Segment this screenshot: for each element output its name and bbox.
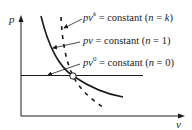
x-axis-label: v xyxy=(176,119,181,130)
label-close: ) xyxy=(170,57,174,68)
label-n-eq: = xyxy=(154,12,165,23)
label-prefix: pv xyxy=(83,57,93,68)
label-equation: = constant ( xyxy=(96,12,148,23)
label-n-eq: = xyxy=(150,35,161,46)
label-close: ) xyxy=(169,12,173,23)
leader-arrow-n-k xyxy=(64,19,82,28)
leader-arrow-n-1 xyxy=(53,42,80,48)
label-equation: = constant ( xyxy=(93,35,145,46)
y-axis-label: p xyxy=(9,14,15,25)
y-axis-arrow-icon xyxy=(19,15,24,22)
label-n-k: pvk = constant (n = k) xyxy=(83,13,173,24)
label-n-0: pv0 = constant (n = 0) xyxy=(83,58,174,69)
label-n-eq: = xyxy=(154,57,165,68)
label-n-1: pv = constant (n = 1) xyxy=(83,36,170,47)
label-equation: = constant ( xyxy=(96,57,148,68)
intersection-marker xyxy=(70,73,76,79)
label-close: ) xyxy=(167,35,171,46)
pv-diagram: p v pvk = constant (n = k) pv = constant… xyxy=(0,0,192,130)
label-prefix: pv xyxy=(83,12,93,23)
label-prefix: pv xyxy=(83,35,93,46)
